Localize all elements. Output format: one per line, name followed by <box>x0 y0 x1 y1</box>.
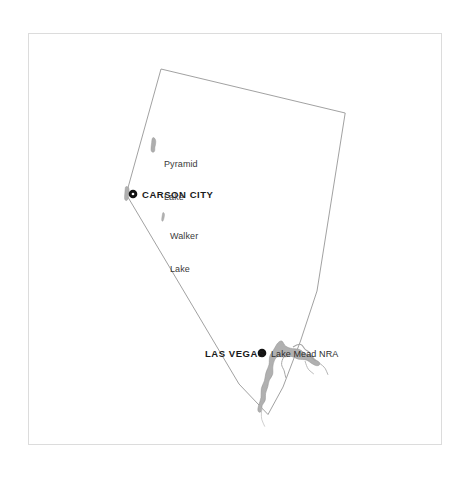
carson-city-marker-inner <box>132 193 135 196</box>
nevada-map: CARSON CITY LAS VEGAS Pyramid Lake Walke… <box>0 0 470 479</box>
pyramid-lake-label-line2: Lake <box>164 192 198 203</box>
map-canvas <box>0 0 470 479</box>
walker-lake-label-line2: Lake <box>170 264 198 275</box>
lake-mead-nra-label: Lake Mead NRA <box>271 349 338 360</box>
las-vegas-label: LAS VEGAS <box>205 348 265 359</box>
walker-lake-label-line1: Walker <box>170 231 198 242</box>
pyramid-lake-label-line1: Pyramid <box>164 159 198 170</box>
walker-lake-label: Walker Lake <box>170 209 198 297</box>
